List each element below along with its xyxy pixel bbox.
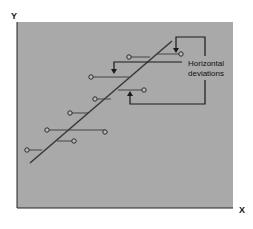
data-point	[142, 88, 146, 92]
data-point	[103, 130, 107, 134]
data-point	[72, 139, 76, 143]
y-axis-label: Y	[11, 11, 17, 21]
data-point	[25, 148, 29, 152]
data-point	[127, 55, 131, 59]
annotation-line-2: deviations	[188, 69, 224, 78]
data-point	[93, 97, 97, 101]
horizontal-deviations-diagram: Y X	[0, 0, 253, 229]
data-point	[45, 128, 49, 132]
data-point	[179, 52, 183, 56]
x-axis-label: X	[239, 205, 245, 215]
data-point	[89, 75, 93, 79]
data-point	[68, 111, 72, 115]
diagram-canvas: Y X	[0, 0, 253, 229]
annotation-line-1: Horizontal	[188, 59, 224, 68]
plot-area	[17, 22, 233, 208]
